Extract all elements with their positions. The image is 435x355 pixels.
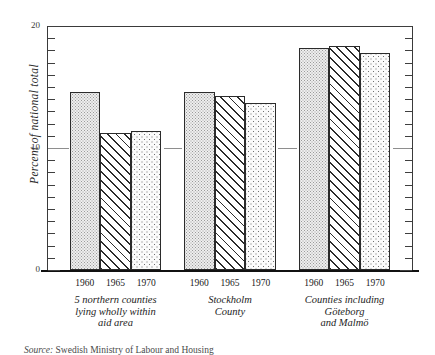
y-tick-right-0	[400, 270, 412, 271]
y-axis-title: Percent of national total	[28, 24, 40, 224]
bar-1960-group3	[299, 48, 330, 270]
source-text: Swedish Ministry of Labour and Housing	[56, 345, 214, 355]
x-axis-baseline	[41, 270, 419, 272]
grid-stub-10-0	[48, 148, 69, 149]
y-tick-label-20: 20	[14, 20, 40, 30]
y-tick-left-1	[48, 258, 55, 259]
y-tick-label-10: 10	[14, 142, 40, 152]
grid-stub-10-3	[393, 148, 412, 149]
y-tick-left-6	[48, 197, 55, 198]
bar-1965-group1	[100, 133, 131, 270]
y-tick-left-18	[48, 50, 55, 51]
caption-line: aid area	[40, 317, 192, 329]
y-tick-left-11	[48, 136, 55, 137]
y-tick-right-20	[400, 26, 412, 27]
y-tick-right-3	[405, 233, 412, 234]
y-tick-left-19	[48, 38, 55, 39]
y-tick-right-1	[405, 258, 412, 259]
year-label-1970-group2: 1970	[239, 278, 282, 288]
chart-figure: Percent of national total 20 10 0 196019…	[0, 0, 435, 355]
y-tick-left-13	[48, 111, 55, 112]
y-tick-right-4	[405, 221, 412, 222]
y-tick-left-12	[48, 124, 55, 125]
y-tick-right-19	[405, 38, 412, 39]
y-tick-right-16	[405, 75, 412, 76]
grid-stub-10-2	[278, 148, 297, 149]
y-tick-left-7	[48, 185, 55, 186]
y-tick-left-3	[48, 233, 55, 234]
y-tick-left-17	[48, 63, 55, 64]
bar-1960-group1	[70, 92, 101, 270]
y-tick-right-2	[405, 246, 412, 247]
y-tick-left-15	[48, 87, 55, 88]
bar-1970-group3	[360, 53, 391, 270]
y-tick-right-9	[405, 160, 412, 161]
bar-1965-group3	[329, 46, 360, 270]
caption-line: and Malmö	[269, 317, 421, 329]
y-tick-label-0: 0	[14, 264, 40, 274]
y-tick-right-12	[405, 124, 412, 125]
y-tick-right-18	[405, 50, 412, 51]
y-tick-right-17	[405, 63, 412, 64]
y-axis-right-spine	[412, 26, 413, 270]
y-tick-left-16	[48, 75, 55, 76]
y-tick-right-5	[405, 209, 412, 210]
bar-1960-group2	[184, 92, 215, 270]
source-note: Source: Swedish Ministry of Labour and H…	[24, 345, 214, 355]
y-tick-left-20	[48, 26, 60, 27]
y-tick-right-14	[405, 99, 412, 100]
y-tick-right-7	[405, 185, 412, 186]
y-tick-left-9	[48, 160, 55, 161]
y-tick-left-4	[48, 221, 55, 222]
y-tick-right-13	[405, 111, 412, 112]
y-tick-left-2	[48, 246, 55, 247]
plot-top-rule	[47, 26, 413, 27]
source-label: Source:	[24, 345, 53, 355]
year-label-1970-group1: 1970	[125, 278, 168, 288]
y-tick-left-8	[48, 172, 55, 173]
bar-1970-group1	[131, 131, 162, 270]
group-caption-3: Counties includingGöteborgand Malmö	[269, 294, 421, 329]
year-label-1970-group3: 1970	[354, 278, 397, 288]
y-tick-right-8	[405, 172, 412, 173]
plot-area: 20 10 0	[47, 26, 413, 270]
caption-line: Göteborg	[269, 306, 421, 318]
y-tick-right-11	[405, 136, 412, 137]
bar-1965-group2	[215, 96, 246, 270]
grid-stub-10-1	[164, 148, 183, 149]
y-tick-right-6	[405, 197, 412, 198]
y-tick-left-5	[48, 209, 55, 210]
bar-1970-group2	[245, 103, 276, 270]
y-tick-left-14	[48, 99, 55, 100]
y-tick-right-15	[405, 87, 412, 88]
caption-line: Counties including	[269, 294, 421, 306]
y-tick-left-0	[48, 270, 60, 271]
